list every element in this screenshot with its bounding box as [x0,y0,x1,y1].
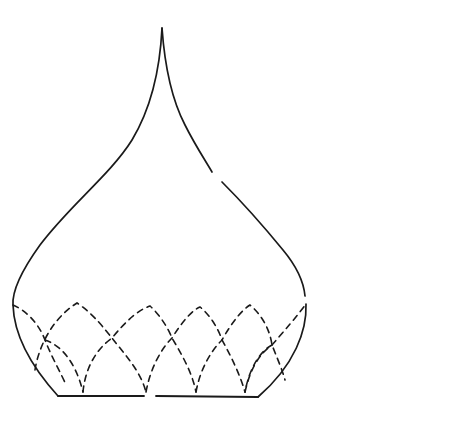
onion-dome-drawing [0,0,454,425]
scale-arch-lower-2 [245,345,272,392]
scale-arch-upper-2 [35,303,146,392]
dome-outline-right-upper [162,28,212,172]
scale-arch-lower-1 [45,340,83,392]
dome-outline-right-mid [222,182,305,296]
scale-arch-upper-4 [146,307,245,392]
dome-base-line-right [156,396,258,397]
scale-arch-upper-3 [83,306,196,392]
dome-outline-left [13,28,162,396]
